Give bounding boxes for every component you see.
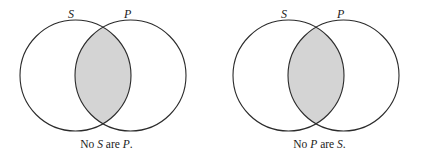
venn-svg-left xyxy=(0,0,213,140)
caption-suffix: . xyxy=(343,138,346,150)
diagram-caption: No P are S. xyxy=(213,138,426,151)
venn-diagram-figure: S P No S are P. S P No P are S. xyxy=(0,0,426,160)
caption-middle: are xyxy=(317,138,337,150)
caption-middle: are xyxy=(103,138,123,150)
venn-diagram-no-p-are-s: S P No P are S. xyxy=(213,0,426,160)
caption-suffix: . xyxy=(130,138,133,150)
diagram-caption: No S are P. xyxy=(0,138,213,151)
circle-label-p: P xyxy=(337,8,345,20)
circle-label-p: P xyxy=(124,8,132,20)
caption-prefix: No xyxy=(293,138,310,150)
venn-diagram-no-s-are-p: S P No S are P. xyxy=(0,0,213,160)
venn-svg-right xyxy=(213,0,426,140)
circle-label-s: S xyxy=(68,8,74,20)
circle-label-s: S xyxy=(281,8,287,20)
caption-predicate: P xyxy=(123,138,130,150)
caption-prefix: No xyxy=(80,138,97,150)
